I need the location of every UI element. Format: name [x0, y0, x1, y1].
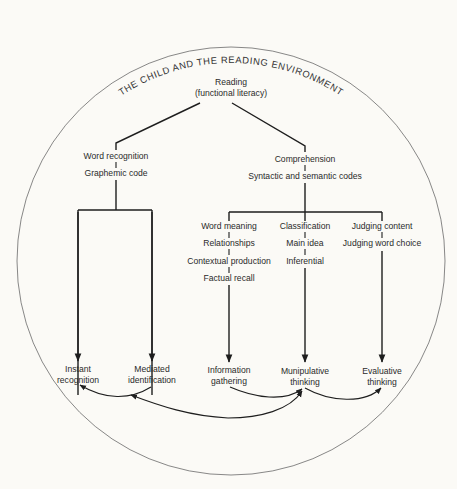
- connector-root-to-comprehension: [232, 103, 305, 152]
- word-meaning-item: Word meaning: [201, 221, 257, 231]
- judging-word-choice-item: Judging word choice: [343, 238, 422, 248]
- munipulative-thinking-line1: Munipulative: [281, 366, 329, 376]
- mediated-identification-line2: identification: [128, 375, 176, 385]
- word-recognition-bracket: [78, 180, 152, 395]
- evaluative-thinking-line1: Evaluative: [362, 366, 402, 376]
- arrow-information-to-munipulative: [230, 387, 302, 397]
- instant-recognition-line2: recognition: [57, 375, 99, 385]
- arrow-munipulative-to-mediated: [131, 395, 228, 418]
- root-label-line1: Reading: [215, 77, 247, 87]
- information-gathering-line1: Information: [208, 365, 251, 375]
- root-label-line2: (functional literacy): [195, 88, 267, 98]
- inferential-item: Inferential: [286, 256, 324, 266]
- contextual-production-item: Contextual production: [187, 256, 271, 266]
- information-gathering-line2: gathering: [211, 376, 247, 386]
- comprehension-bracket: [229, 183, 382, 221]
- evaluative-thinking-line2: thinking: [367, 377, 397, 387]
- reading-environment-diagram: THE CHILD AND THE READING ENVIRONMENT Re…: [0, 0, 457, 489]
- arrow-munipulative-to-evaluative: [305, 388, 381, 399]
- codes-label: Syntactic and semantic codes: [248, 171, 362, 181]
- mediated-identification-line1: Mediated: [134, 364, 170, 374]
- judging-content-item: Judging content: [352, 221, 413, 231]
- main-idea-item: Main idea: [286, 238, 323, 248]
- classification-item: Classification: [280, 221, 331, 231]
- factual-recall-item: Factual recall: [203, 273, 254, 283]
- instant-recognition-line1: Instant: [65, 364, 91, 374]
- arrow-mediated-to-instant: [80, 385, 151, 397]
- comprehension-label: Comprehension: [275, 154, 336, 164]
- word-recognition-label: Word recognition: [84, 151, 149, 161]
- connector-root-to-word-recognition: [116, 103, 200, 150]
- relationships-item: Relationships: [203, 238, 255, 248]
- graphemic-code-label: Graphemic code: [84, 168, 147, 178]
- munipulative-thinking-line2: thinking: [290, 377, 320, 387]
